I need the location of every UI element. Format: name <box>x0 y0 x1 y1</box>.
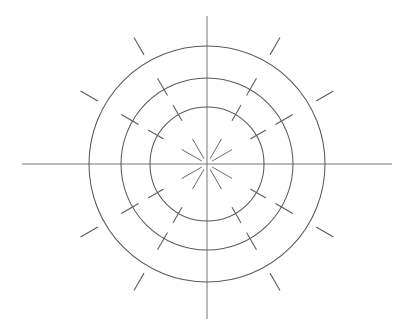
diagram-canvas <box>0 0 406 326</box>
diagram-background <box>0 0 406 326</box>
polar-ring-diagram <box>0 0 406 326</box>
